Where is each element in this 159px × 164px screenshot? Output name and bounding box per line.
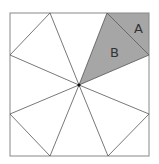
- label-a: A: [134, 21, 143, 36]
- octagon-division-diagram: A B: [0, 0, 159, 164]
- center-point: [77, 83, 80, 86]
- label-b: B: [110, 45, 119, 60]
